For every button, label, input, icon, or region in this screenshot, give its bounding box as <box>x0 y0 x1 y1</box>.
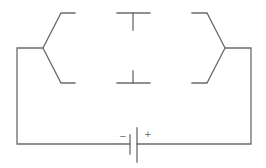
battery-positive-label: + <box>144 129 152 139</box>
left-electrode <box>43 13 75 83</box>
right-fork <box>192 13 225 83</box>
battery-negative-label: − <box>119 131 127 141</box>
circuit-svg: − + <box>0 0 266 168</box>
circuit-diagram: − + <box>0 0 266 168</box>
circuit-wires <box>17 48 251 144</box>
right-wire <box>137 48 251 144</box>
left-fork <box>43 13 75 83</box>
center-terminals <box>117 13 150 83</box>
battery: − + <box>119 128 152 162</box>
right-electrode <box>192 13 225 83</box>
left-wire <box>17 48 130 144</box>
